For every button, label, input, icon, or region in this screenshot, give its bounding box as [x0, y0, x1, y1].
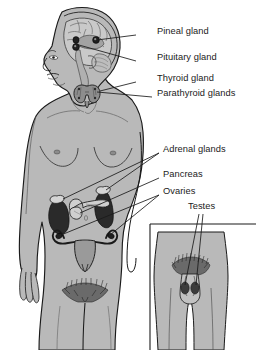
- label-pituitary-gland: Pituitary gland: [157, 52, 217, 62]
- label-adrenal-glands: Adrenal glands: [163, 144, 226, 154]
- label-parathyroid-glands: Parathyroid glands: [157, 88, 235, 98]
- nipple-right: [110, 151, 116, 155]
- testis-right: [191, 282, 199, 294]
- male-inset-figure: [148, 221, 256, 350]
- endocrine-diagram: Pineal gland Pituitary gland Thyroid gla…: [0, 0, 256, 350]
- parathyroid-gland-2: [78, 97, 80, 99]
- nipple-left: [54, 150, 60, 154]
- pupil: [52, 56, 55, 59]
- label-thyroid-gland: Thyroid gland: [157, 73, 214, 83]
- anatomy-illustration: [0, 0, 256, 350]
- parathyroid-gland-1: [78, 88, 80, 90]
- female-figure: [19, 8, 143, 350]
- parathyroid-gland-3: [94, 88, 96, 90]
- label-pineal-gland: Pineal gland: [157, 26, 209, 36]
- parathyroid-gland-4: [94, 97, 96, 99]
- label-ovaries: Ovaries: [163, 186, 195, 196]
- label-testes: Testes: [188, 201, 215, 211]
- label-pancreas: Pancreas: [163, 169, 203, 179]
- body-silhouette: [19, 64, 143, 350]
